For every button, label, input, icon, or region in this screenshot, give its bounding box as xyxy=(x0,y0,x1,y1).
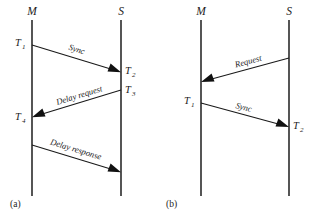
panel-a-timestamp-t3-subscript: 3 xyxy=(131,90,136,98)
panel-b-timestamp-t1-name: T xyxy=(184,95,191,106)
panel-b-caption: (b) xyxy=(166,199,177,210)
panel-a-timestamp-t2-subscript: 2 xyxy=(132,71,136,79)
panel-b-master-label: M xyxy=(195,5,207,17)
panel-a-timestamp-t3-name: T xyxy=(125,84,132,95)
panel-a-message-label-sync: Sync xyxy=(68,42,87,56)
panel-a-timestamp-t4: T 4 xyxy=(15,111,26,125)
panel-a-timestamp-t2: T 2 xyxy=(125,65,136,79)
panel-b-timestamp-t1: T 1 xyxy=(184,95,195,109)
panel-b-timestamp-t1-subscript: 1 xyxy=(191,101,195,109)
panel-a-timestamp-t1-subscript: 1 xyxy=(22,43,26,51)
panel-b-timestamp-t2-subscript: 2 xyxy=(300,126,304,134)
panel-b-slave-label: S xyxy=(286,5,292,17)
panel-a-timestamp-t2-name: T xyxy=(125,65,132,76)
panel-b-request-arrow-head xyxy=(201,73,215,82)
panel-b-message-label-request: Request xyxy=(233,53,263,70)
panel-a-delay-response-arrow-head xyxy=(108,163,122,172)
panel-b-sync-arrow-head xyxy=(276,118,290,127)
panel-a-timestamp-t3: T 3 xyxy=(125,84,136,98)
panel-a-master-label: M xyxy=(26,5,38,17)
panel-a-timestamp-t4-subscript: 4 xyxy=(22,117,26,125)
panel-a-delay-request-arrow-head xyxy=(32,108,46,117)
panel-a-timestamp-t4-name: T xyxy=(15,111,22,122)
timing-protocol-diagram: M S Sync Delay request Delay response T … xyxy=(0,0,317,223)
panel-a-timestamp-t1-name: T xyxy=(15,37,22,48)
panel-a-message-label-delay-request: Delay request xyxy=(54,83,104,107)
panel-a-sync-arrow-head xyxy=(108,63,122,72)
panel-a: M S Sync Delay request Delay response T … xyxy=(10,5,136,210)
figure-root: M S Sync Delay request Delay response T … xyxy=(0,0,317,223)
panel-a-caption: (a) xyxy=(10,199,21,210)
panel-b-timestamp-t2: T 2 xyxy=(293,120,304,134)
panel-b-message-label-sync: Sync xyxy=(235,100,253,114)
panel-a-slave-label: S xyxy=(118,5,124,17)
panel-a-timestamp-t1: T 1 xyxy=(15,37,26,51)
panel-b: M S Request Sync T 1 T 2 (b) xyxy=(166,5,304,210)
panel-b-timestamp-t2-name: T xyxy=(293,120,300,131)
